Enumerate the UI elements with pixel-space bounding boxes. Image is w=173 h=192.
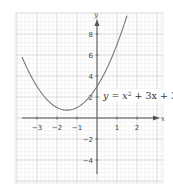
x-tick-label: 1 (115, 124, 119, 132)
x-axis-label: x (161, 115, 165, 123)
x-tick-label: −2 (52, 124, 62, 132)
y-tick-label: −4 (83, 157, 94, 165)
parabola-chart: −3−2−112−4−22468 y = x2 + 3x + 3 x y (0, 0, 173, 192)
x-tick-label: 2 (135, 124, 139, 132)
y-tick-label: −2 (83, 136, 93, 144)
y-axis-label: y (93, 11, 99, 19)
y-tick-label: 6 (89, 52, 94, 60)
y-tick-label: 4 (89, 73, 94, 81)
y-tick-label: 8 (89, 31, 93, 39)
x-tick-label: −3 (32, 124, 42, 132)
x-tick-label: −1 (72, 124, 82, 132)
equation-label: y = x2 + 3x + 3 (102, 90, 173, 102)
